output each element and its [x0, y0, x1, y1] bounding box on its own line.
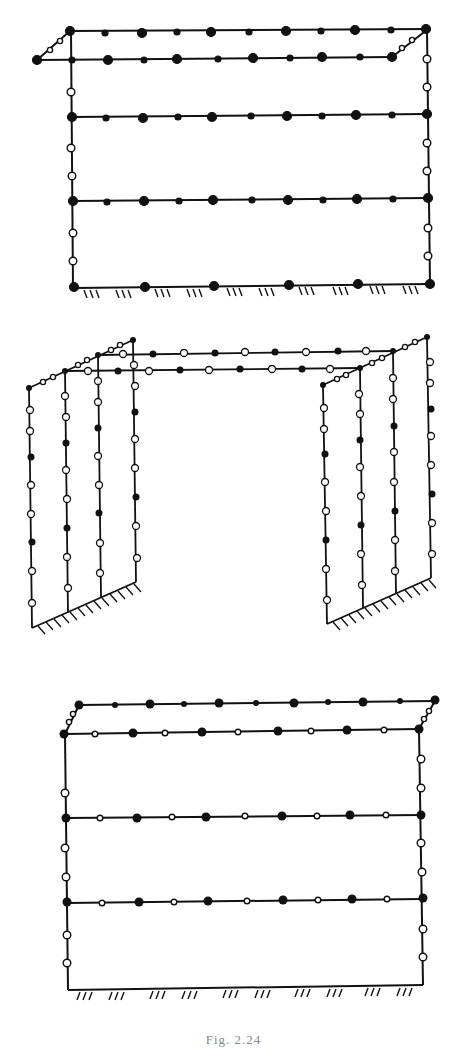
ground-hatching-middle [38, 580, 436, 634]
frame-middle-open-nodes [27, 339, 436, 606]
frame-top-open-nodes [47, 37, 431, 264]
frame-middle-filled-nodes [26, 334, 436, 546]
frame-middle [29, 337, 431, 628]
figure-caption: Fig. 2.24 [0, 1032, 467, 1048]
frame-top-nodes [33, 25, 435, 292]
frame-top [37, 29, 430, 288]
frame-bottom-open-nodes [61, 708, 431, 966]
frame-bottom [65, 701, 435, 990]
